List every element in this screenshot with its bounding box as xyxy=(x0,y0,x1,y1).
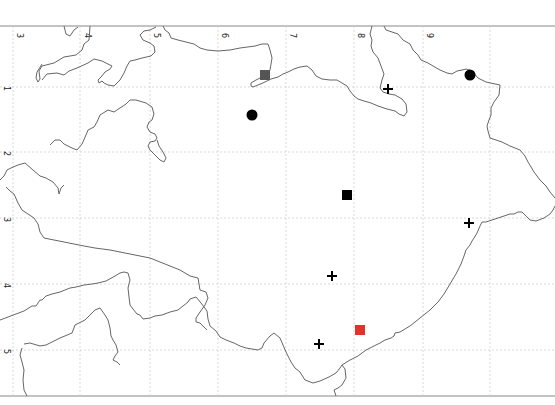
grid-lines xyxy=(0,26,555,396)
coastline-south-lower xyxy=(20,308,120,396)
coastline-southwest xyxy=(0,272,143,320)
col-label: 4 xyxy=(83,33,92,38)
row-label: 4 xyxy=(2,283,11,288)
coastline-brittany xyxy=(0,163,208,330)
col-label: 8 xyxy=(356,33,365,38)
marker-gray-square[interactable] xyxy=(260,70,270,80)
coastline-northeast xyxy=(384,26,555,198)
coastline-northwest xyxy=(36,26,90,82)
marker-black-circle[interactable] xyxy=(465,70,476,81)
col-label: 9 xyxy=(425,33,434,38)
markers xyxy=(247,70,476,350)
row-label: 1 xyxy=(2,86,11,91)
marker-black-square[interactable] xyxy=(342,190,352,200)
coastline-inlet xyxy=(42,27,156,86)
marker-cross[interactable] xyxy=(464,218,474,228)
row-label: 3 xyxy=(2,217,11,222)
row-labels: 1 2 3 4 5 xyxy=(2,86,11,354)
coastline-gironde xyxy=(143,297,346,396)
coastline-north xyxy=(163,26,407,116)
col-label: 5 xyxy=(152,33,161,38)
col-label: 7 xyxy=(288,33,297,38)
row-label: 5 xyxy=(2,349,11,354)
col-label: 6 xyxy=(220,33,229,38)
coastline-west xyxy=(50,100,166,162)
coastline-east xyxy=(342,206,555,365)
marker-red-square[interactable] xyxy=(355,325,365,335)
coastlines xyxy=(0,26,555,396)
marker-black-circle[interactable] xyxy=(247,110,258,121)
map-canvas: 3 4 5 6 7 8 9 1 2 3 4 5 xyxy=(0,0,555,405)
col-label: 3 xyxy=(15,33,24,38)
row-label: 2 xyxy=(2,151,11,156)
marker-cross[interactable] xyxy=(327,271,337,281)
marker-cross[interactable] xyxy=(314,339,324,349)
